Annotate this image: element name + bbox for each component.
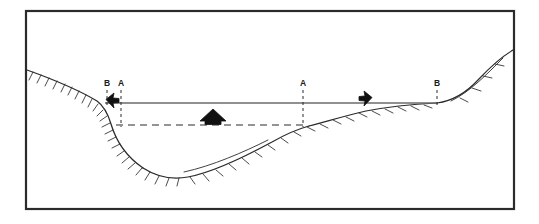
label-b-right: B bbox=[434, 78, 440, 88]
label-a-mid: A bbox=[300, 78, 306, 88]
figure-border bbox=[26, 11, 514, 209]
label-a-left: A bbox=[118, 78, 124, 88]
diagram-canvas: B A A B bbox=[0, 0, 539, 224]
label-b-left: B bbox=[104, 78, 110, 88]
cross-section-figure: B A A B bbox=[0, 0, 539, 224]
